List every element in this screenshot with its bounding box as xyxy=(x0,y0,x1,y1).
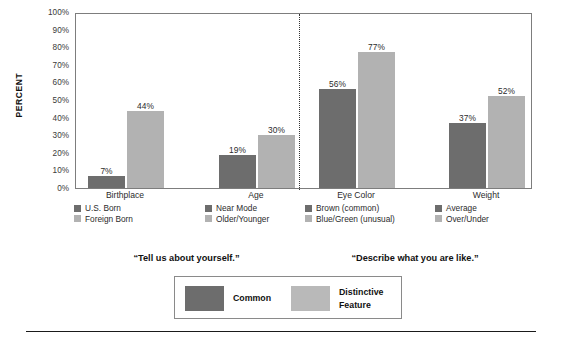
group-eye-color: Eye ColorBrown (common)Blue/Green (unusu… xyxy=(291,191,421,223)
group-name: Birthplace xyxy=(60,191,190,200)
bar-birthplace-common xyxy=(88,176,125,188)
bar-eye-color-common xyxy=(319,89,356,188)
legend-label: Foreign Born xyxy=(85,215,133,223)
group-labels-and-legends: BirthplaceU.S. BornForeign BornAgeNear M… xyxy=(75,191,532,246)
bar-birthplace-distinctive xyxy=(127,111,164,188)
key-swatch-common-icon xyxy=(185,286,224,311)
legend-item: Brown (common) xyxy=(291,204,421,212)
legend-item: Foreign Born xyxy=(60,215,190,223)
bar-value-label: 56% xyxy=(313,80,362,88)
legend-swatch-distinctive-icon xyxy=(205,215,212,222)
bar-value-label: 19% xyxy=(213,146,262,154)
group-name: Weight xyxy=(421,191,551,200)
legend-swatch-distinctive-icon xyxy=(305,215,312,222)
bar-value-label: 44% xyxy=(121,102,170,110)
y-axis-title: PERCENT xyxy=(14,55,24,135)
chart-key-box: Common Distinctive Feature xyxy=(174,276,402,319)
bar-value-label: 30% xyxy=(252,126,301,134)
bar-age-common xyxy=(219,155,256,188)
legend-label: Over/Under xyxy=(446,215,489,223)
key-label-common: Common xyxy=(233,292,271,305)
key-item-distinctive: Distinctive Feature xyxy=(291,286,384,312)
legend-item: Blue/Green (unusual) xyxy=(291,215,421,223)
y-axis-tick-label: 20% xyxy=(53,150,69,158)
group-name: Eye Color xyxy=(291,191,421,200)
legend-swatch-common-icon xyxy=(74,205,81,212)
plot-area: 7%44%19%30%56%77%37%52% xyxy=(75,13,532,189)
bar-value-label: 77% xyxy=(352,43,401,51)
bar-weight-common xyxy=(449,123,486,188)
section-caption-right: “Describe what you are like.” xyxy=(298,253,532,263)
y-axis-tick-label: 90% xyxy=(53,27,69,35)
legend-label: U.S. Born xyxy=(85,204,121,212)
section-caption-left: “Tell us about yourself.” xyxy=(75,253,298,263)
legend-label: Blue/Green (unusual) xyxy=(316,215,395,223)
key-swatch-distinctive-icon xyxy=(291,286,330,311)
key-item-common: Common xyxy=(185,286,271,311)
legend-swatch-common-icon xyxy=(305,205,312,212)
legend-item: U.S. Born xyxy=(60,204,190,212)
plot-inner: 7%44%19%30%56%77%37%52% xyxy=(76,14,531,188)
bar-eye-color-distinctive xyxy=(358,52,395,188)
bar-age-distinctive xyxy=(258,135,295,188)
legend-label: Near Mode xyxy=(216,204,257,212)
bar-weight-distinctive xyxy=(488,96,525,188)
y-axis-tick-label: 10% xyxy=(53,167,69,175)
legend-swatch-distinctive-icon xyxy=(74,215,81,222)
group-birthplace: BirthplaceU.S. BornForeign Born xyxy=(60,191,190,223)
y-axis-tick-label: 100% xyxy=(48,9,69,17)
legend-label: Brown (common) xyxy=(316,204,379,212)
bar-value-label: 37% xyxy=(443,114,492,122)
y-axis-tick-label: 40% xyxy=(53,115,69,123)
y-axis-tick-label: 80% xyxy=(53,44,69,52)
key-label-distinctive: Distinctive Feature xyxy=(339,286,384,312)
legend-swatch-distinctive-icon xyxy=(435,215,442,222)
bar-value-label: 52% xyxy=(482,87,531,95)
legend-label: Average xyxy=(446,204,477,212)
bottom-horizontal-rule xyxy=(26,331,536,332)
y-axis-tick-label: 30% xyxy=(53,132,69,140)
legend-item: Over/Under xyxy=(421,215,551,223)
section-divider-line xyxy=(299,14,300,190)
bar-value-label: 7% xyxy=(82,167,131,175)
group-weight: WeightAverageOver/Under xyxy=(421,191,551,223)
y-axis-tick-label: 50% xyxy=(53,97,69,105)
legend-item: Average xyxy=(421,204,551,212)
y-axis-tick-label: 60% xyxy=(53,79,69,87)
legend-swatch-common-icon xyxy=(205,205,212,212)
legend-swatch-common-icon xyxy=(435,205,442,212)
y-axis-tick-labels: 100%90%80%70%60%50%40%30%20%10%0% xyxy=(30,13,72,189)
y-axis-tick-label: 70% xyxy=(53,62,69,70)
legend-label: Older/Younger xyxy=(216,215,269,223)
